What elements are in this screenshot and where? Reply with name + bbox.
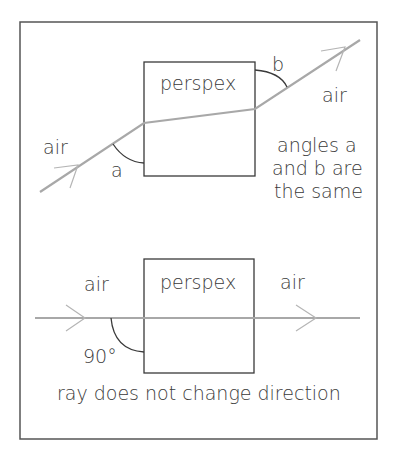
top-diagram: perspex air air a b angles a and b are t… <box>40 40 363 202</box>
caption: ray does not change direction <box>57 382 341 404</box>
angle-b-label: b <box>272 53 284 75</box>
note-line-1: angles a <box>277 134 357 156</box>
refraction-diagram: perspex air air a b angles a and b are t… <box>0 0 394 453</box>
left-medium-label: air <box>43 136 68 158</box>
left-medium-label: air <box>84 273 109 295</box>
angle-a-label: a <box>111 159 123 181</box>
right-medium-label: air <box>280 271 305 293</box>
angle-90-label: 90° <box>83 345 117 367</box>
block-label: perspex <box>160 72 236 94</box>
block-label: perspex <box>160 271 236 293</box>
note-line-2: and b are <box>272 157 363 179</box>
bottom-diagram: perspex air air 90° ray does not change … <box>35 259 360 404</box>
right-medium-label: air <box>322 84 347 106</box>
note-line-3: the same <box>274 180 363 202</box>
